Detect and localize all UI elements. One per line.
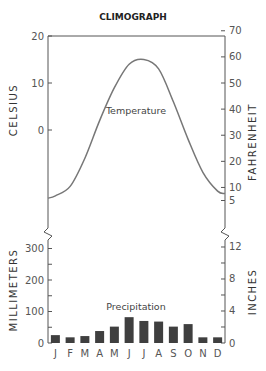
precipitation-bar (169, 327, 178, 343)
precipitation-bar (66, 337, 75, 343)
tick-label: 10 (31, 78, 44, 89)
precipitation-bar (213, 337, 222, 343)
precipitation-bar (184, 324, 193, 343)
month-label: F (67, 348, 73, 359)
month-label: D (214, 348, 222, 359)
month-label: O (184, 348, 192, 359)
precipitation-bar (154, 322, 163, 343)
month-label: N (199, 348, 206, 359)
tick-marks (48, 31, 225, 343)
month-label: M (81, 348, 90, 359)
millimeters-axis-label: MILLIMETERS (8, 249, 19, 332)
month-label: S (170, 348, 176, 359)
tick-label: 300 (25, 243, 44, 254)
temperature-line (48, 59, 225, 198)
tick-label: 60 (229, 51, 242, 62)
climograph-chart: CLIMOGRAPH 20100706050403020105300200100… (0, 0, 266, 371)
fahrenheit-axis-label: FAHRENHEIT (247, 103, 258, 181)
tick-label: 4 (229, 305, 235, 316)
tick-label: 40 (229, 104, 242, 115)
precipitation-bar (51, 335, 60, 343)
month-label: A (96, 348, 103, 359)
precipitation-bar (110, 327, 119, 343)
inches-axis-label: INCHES (247, 269, 258, 316)
month-label: A (155, 348, 162, 359)
tick-label: 30 (229, 130, 242, 141)
temperature-label: Temperature (105, 105, 166, 116)
tick-label: 200 (25, 275, 44, 286)
precipitation-bar (95, 331, 104, 343)
month-label: M (110, 348, 119, 359)
tick-label: 50 (229, 78, 242, 89)
precipitation-bar (80, 336, 89, 343)
tick-label: 20 (31, 31, 44, 42)
tick-label: 70 (229, 25, 242, 36)
month-label: J (53, 348, 57, 359)
month-labels: JFMAMJJASOND (53, 348, 222, 359)
chart-title: CLIMOGRAPH (99, 12, 167, 22)
tick-label: 12 (229, 241, 242, 252)
tick-label: 8 (229, 273, 235, 284)
celsius-axis-label: CELSIUS (8, 84, 19, 136)
precipitation-bar (198, 337, 207, 343)
precipitation-bar (125, 317, 134, 343)
tick-label: 100 (25, 306, 44, 317)
month-label: J (141, 348, 145, 359)
precipitation-label: Precipitation (106, 301, 165, 312)
precipitation-bars (51, 317, 222, 343)
month-label: J (127, 348, 131, 359)
tick-label: 0 (38, 338, 44, 349)
tick-label: 20 (229, 156, 242, 167)
tick-label: 10 (229, 182, 242, 193)
axes (44, 36, 229, 343)
tick-label: 0 (229, 338, 235, 349)
precipitation-bar (139, 321, 148, 343)
tick-label: 5 (229, 195, 235, 206)
tick-label: 0 (38, 125, 44, 136)
